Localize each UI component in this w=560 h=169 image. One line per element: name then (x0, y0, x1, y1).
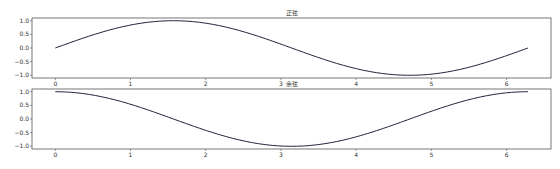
subplot-cos: 余弦01234561.00.50.0−0.5−1.0 (14, 80, 551, 158)
subplot-title: 余弦 (286, 80, 298, 88)
x-tick-label: 3 (279, 80, 283, 87)
figure: 正弦01234561.00.50.0−0.5−1.0余弦01234561.00.… (0, 0, 560, 169)
x-tick-label: 2 (204, 80, 208, 87)
y-tick-label: 0.0 (19, 44, 29, 51)
y-tick-label: 0.5 (19, 101, 29, 108)
x-tick-label: 5 (429, 151, 433, 158)
x-tick-label: 4 (354, 80, 358, 87)
y-tick-label: −1.0 (14, 71, 29, 78)
subplot-title: 正弦 (286, 9, 298, 17)
x-tick-label: 2 (204, 151, 208, 158)
y-tick-label: 0.0 (19, 115, 29, 122)
y-tick-label: 0.5 (19, 30, 29, 37)
line-cos (55, 92, 528, 147)
x-tick-label: 6 (505, 80, 509, 87)
y-tick-label: 1.0 (19, 88, 29, 95)
y-tick-label: 1.0 (19, 17, 29, 24)
x-tick-label: 4 (354, 151, 358, 158)
axes-frame (32, 89, 551, 149)
x-tick-label: 1 (129, 80, 133, 87)
x-tick-label: 0 (53, 151, 57, 158)
line-sin (55, 21, 528, 76)
x-tick-label: 3 (279, 151, 283, 158)
x-tick-label: 1 (129, 151, 133, 158)
y-tick-label: −0.5 (14, 58, 29, 65)
x-tick-label: 5 (429, 80, 433, 87)
x-tick-label: 0 (53, 80, 57, 87)
x-tick-label: 6 (505, 151, 509, 158)
y-tick-label: −1.0 (14, 142, 29, 149)
subplot-sin: 正弦01234561.00.50.0−0.5−1.0 (14, 9, 551, 87)
y-tick-label: −0.5 (14, 129, 29, 136)
